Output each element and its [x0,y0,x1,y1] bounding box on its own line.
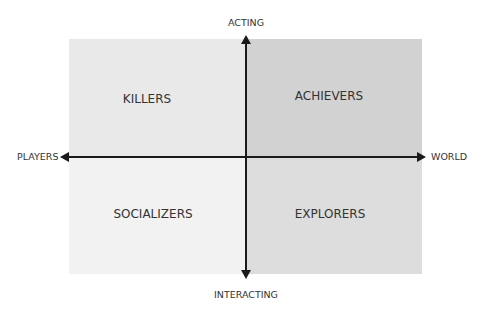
label-explorers: EXPLORERS [295,207,366,221]
arrow-left-icon [60,152,69,162]
axis-label-acting: ACTING [228,17,264,28]
arrow-right-icon [417,152,426,162]
label-socializers: SOCIALIZERS [113,207,192,221]
axis-label-interacting: INTERACTING [214,289,278,300]
axis-label-world: WORLD [431,151,467,162]
arrow-up-icon [241,35,251,44]
axis-label-players: PLAYERS [17,151,58,162]
label-killers: KILLERS [123,92,171,106]
arrow-down-icon [241,270,251,279]
axes [0,0,485,313]
label-achievers: ACHIEVERS [295,89,363,103]
